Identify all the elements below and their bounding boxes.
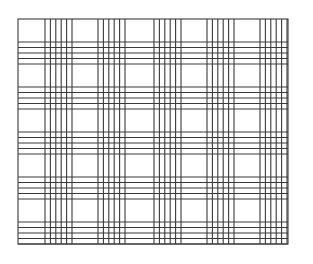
plaid-grid-pattern bbox=[0, 0, 313, 264]
grid-lines bbox=[18, 19, 288, 244]
